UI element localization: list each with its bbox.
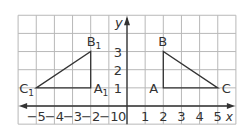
y-axis-arrow-icon	[124, 16, 130, 25]
vertex-label-b1: B1	[87, 34, 102, 51]
x-tick-label: −3	[63, 109, 82, 124]
x-tick-label: 5	[214, 109, 222, 124]
y-tick-label: 1	[114, 81, 122, 96]
vertex-subscript: 1	[103, 88, 109, 98]
vertex-label-a1: A1	[94, 81, 109, 98]
vertex-label-c: C	[222, 81, 231, 96]
x-tick-label: 1	[141, 109, 149, 124]
y-tick-label: 2	[114, 63, 122, 78]
x-tick-label: 3	[177, 109, 185, 124]
x-axis-arrow-right-icon	[227, 103, 235, 109]
x-tick-label: −4	[45, 109, 64, 124]
y-tick-label: 3	[114, 45, 122, 60]
vertex-subscript: 1	[28, 88, 34, 98]
coordinate-plane: x y 0 −5−4−3−2−112345123 ABCA1B1C1	[0, 0, 247, 136]
y-axis-label: y	[114, 15, 123, 30]
x-axis-label: x	[225, 110, 234, 124]
x-tick-label: −5	[27, 109, 46, 124]
coordinate-grid-figure: x y 0 −5−4−3−2−112345123 ABCA1B1C1	[0, 0, 247, 136]
x-tick-label: 2	[159, 109, 167, 124]
vertex-label-b: B	[158, 34, 167, 49]
x-tick-label: 4	[195, 109, 203, 124]
vertex-label-c1: C1	[19, 81, 34, 98]
vertex-subscript: 1	[96, 41, 102, 51]
x-tick-label: −2	[81, 109, 100, 124]
origin-label: 0	[118, 109, 126, 124]
vertex-label-a: A	[149, 81, 158, 96]
x-tick-label: −1	[99, 109, 118, 124]
